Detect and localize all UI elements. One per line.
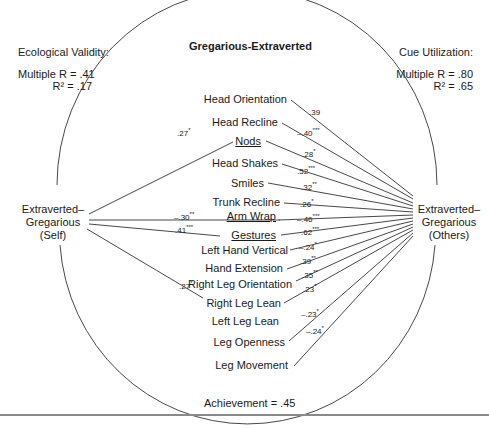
cue-right-leg-lean: Right Leg Lean — [150, 297, 281, 310]
utilization-coef-arm-wrap: –.46*** — [297, 212, 320, 224]
cue-left-hand-vertical: Left Hand Vertical — [150, 244, 288, 257]
achievement-label: Achievement = .45 — [204, 397, 295, 410]
utilization-coef-trunk-recline: .26* — [300, 197, 313, 209]
utilization-coef-right-leg-orientation: .35** — [302, 268, 318, 280]
utilization-coef-gestures: .62*** — [301, 225, 319, 237]
cue-head-orientation: Head Orientation — [150, 93, 287, 106]
utilization-coef-leg-openness: –.23* — [301, 307, 319, 319]
node-others-line1: Extraverted– — [414, 203, 484, 216]
cue-right-leg-orientation: Right Leg Orientation — [150, 278, 292, 291]
diagram-title: Gregarious-Extraverted — [189, 40, 312, 53]
node-self-line1: Extraverted– — [18, 203, 88, 216]
cue-leg-movement: Leg Movement — [150, 359, 288, 372]
validity-coef-right-leg-lean: .27* — [179, 279, 192, 291]
validity-coef-gestures: .41*** — [175, 223, 193, 235]
utilization-coef-hand-extension: .39** — [300, 254, 316, 266]
utilization-coef-head-shakes: .52*** — [297, 164, 315, 176]
cue-leg-openness: Leg Openness — [150, 336, 285, 349]
utilization-coef-nods: .28* — [302, 147, 315, 159]
ecological-validity-heading: Ecological Validity: — [18, 46, 109, 59]
validity-coef-nods: .27* — [177, 126, 190, 138]
node-others-line2: Gregarious — [414, 216, 484, 229]
utilization-coef-right-leg-lean: .23* — [303, 282, 316, 294]
utilization-lines — [266, 100, 413, 366]
cue-trunk-recline: Trunk Recline — [150, 196, 280, 209]
node-self: Extraverted– Gregarious (Self) — [18, 203, 88, 242]
utilization-r-squared: R² = .65 — [380, 80, 473, 93]
utilization-coef-leg-movement: –.24* — [306, 324, 324, 336]
cue-arm-wrap: Arm Wrap — [150, 210, 276, 223]
bottom-rule — [0, 414, 489, 416]
cue-hand-extension: Hand Extension — [150, 262, 283, 275]
cue-head-shakes: Head Shakes — [150, 157, 278, 170]
node-self-line2: Gregarious — [18, 216, 88, 229]
cue-smiles: Smiles — [150, 177, 264, 190]
cue-utilization-heading: Cue Utilization: — [380, 46, 473, 59]
node-others-line3: (Others) — [414, 229, 484, 242]
validity-coef-arm-wrap: –.30** — [174, 210, 194, 222]
cue-nods: Nods — [150, 135, 261, 148]
node-others: Extraverted– Gregarious (Others) — [414, 203, 484, 242]
utilization-coef-head-orientation: .39 — [309, 105, 320, 117]
utilization-coef-head-recline: –.40*** — [297, 126, 320, 138]
cue-gestures: Gestures — [150, 229, 276, 242]
cue-head-recline: Head Recline — [150, 116, 278, 129]
cue-left-leg-lean: Left Leg Lean — [150, 315, 279, 328]
ecological-r-squared: R² = .17 — [18, 80, 92, 93]
node-self-line3: (Self) — [18, 229, 88, 242]
utilization-coef-smiles: .32** — [301, 180, 317, 192]
utilization-coef-left-hand-vertical: –.24* — [299, 240, 317, 252]
